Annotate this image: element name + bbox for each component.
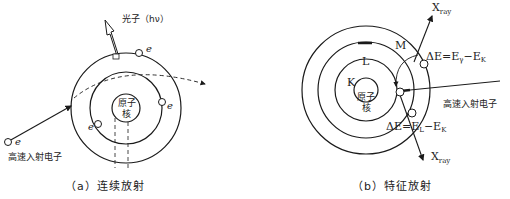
delta-e-bottom: ΔE=EL−EK <box>386 120 447 134</box>
electron-outer <box>136 50 143 57</box>
incident-electron-path-b <box>400 81 500 91</box>
electron-inner-left <box>95 121 102 128</box>
nucleus-b-label-1: 原子 <box>357 92 375 102</box>
shell-label-m: M <box>395 39 406 52</box>
deflected-path <box>74 75 205 98</box>
incident-electron <box>5 139 12 146</box>
delta-e-top: ΔE=Eγ−EK <box>426 50 487 64</box>
shell-label-l: L <box>362 55 370 68</box>
xray-bottom-label: Xray <box>431 150 450 165</box>
shell-label-k: K <box>347 76 356 89</box>
photon-arrow-icon <box>105 20 119 59</box>
incident-electron-label-b: 高速入射电子 <box>443 98 497 109</box>
diagram-canvas: 光子（hν） 原子 核 e e e e 高速入射电子 （a）连续放射 K L M… <box>0 0 510 199</box>
xray-top-label: Xray <box>432 1 451 16</box>
caption-b: （b）特征放射 <box>352 179 432 193</box>
characteristic-emission-diagram: K L M 原子 核 Xray Xray ΔE=Eγ−EK ΔE=EL−EK 高… <box>302 1 500 193</box>
nucleus-b-label-2: 核 <box>362 102 371 113</box>
incident-electron-label: 高速入射电子 <box>8 151 62 162</box>
caption-a: （a）连续放射 <box>65 179 145 193</box>
continuous-emission-diagram: 光子（hν） 原子 核 e e e e 高速入射电子 （a）连续放射 <box>5 13 206 193</box>
electron-label-left: e <box>88 121 94 132</box>
electron-label-outer: e <box>146 43 152 54</box>
electron-inner-right <box>159 99 166 106</box>
nucleus-label-1: 原子 <box>118 98 136 108</box>
photon-label: 光子（hν） <box>122 13 169 24</box>
nucleus-label-2: 核 <box>122 108 131 119</box>
electron-k <box>396 88 404 96</box>
electron-l <box>408 109 416 117</box>
electron-label-incident: e <box>15 136 21 147</box>
electron-label-right: e <box>167 100 173 111</box>
